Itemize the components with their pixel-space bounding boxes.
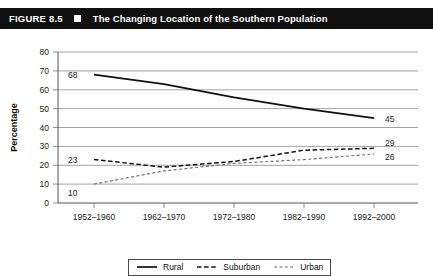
legend-swatch-urban-icon (273, 263, 295, 271)
legend-item-urban[interactable]: Urban (273, 262, 323, 272)
label-urban-end: 26 (385, 152, 395, 162)
y-tick-20: 20 (40, 160, 50, 170)
legend-item-rural[interactable]: Rural (136, 262, 183, 272)
legend-item-suburban[interactable]: Suburban (196, 262, 260, 272)
figure-title: The Changing Location of the Southern Po… (93, 13, 328, 24)
x-tick-1: 1962–1970 (143, 212, 186, 222)
y-tick-marks (53, 52, 58, 203)
data-labels: 68 45 23 29 10 26 (68, 70, 395, 198)
y-tick-70: 70 (40, 66, 50, 76)
chart-area: 80 70 60 50 40 30 20 10 0 Percentage (0, 29, 433, 260)
y-tick-60: 60 (40, 85, 50, 95)
label-rural-end: 45 (385, 114, 395, 124)
chart-legend: Rural Suburban Urban (128, 259, 331, 276)
x-tick-2: 1972–1980 (213, 212, 256, 222)
y-tick-50: 50 (40, 104, 50, 114)
figure-number-label: FIGURE 8.5 (9, 13, 63, 24)
y-tick-0: 0 (44, 198, 49, 208)
label-rural-start: 68 (68, 70, 78, 80)
y-tick-labels: 80 70 60 50 40 30 20 10 0 (40, 47, 50, 208)
filled-square-icon (74, 15, 81, 22)
figure-header-bar: FIGURE 8.5 The Changing Location of the … (0, 8, 433, 29)
legend-label-suburban: Suburban (223, 262, 260, 272)
y-tick-10: 10 (40, 179, 50, 189)
x-tick-0: 1952–1960 (73, 212, 116, 222)
legend-label-urban: Urban (300, 262, 323, 272)
x-tick-marks (94, 203, 374, 208)
y-tick-40: 40 (40, 123, 50, 133)
y-tick-80: 80 (40, 47, 50, 57)
series-line-rural (94, 75, 374, 119)
label-suburban-end: 29 (385, 138, 395, 148)
gridlines (58, 52, 418, 184)
x-tick-3: 1982–1990 (283, 212, 326, 222)
label-urban-start: 10 (68, 188, 78, 198)
legend-swatch-suburban-icon (196, 263, 218, 271)
line-chart: 80 70 60 50 40 30 20 10 0 Percentage (0, 29, 433, 229)
label-suburban-start: 23 (68, 155, 78, 165)
y-tick-30: 30 (40, 141, 50, 151)
series-line-urban (94, 154, 374, 184)
legend-swatch-rural-icon (136, 263, 158, 271)
legend-label-rural: Rural (163, 262, 183, 272)
y-axis-title: Percentage (9, 103, 19, 152)
x-tick-labels: 1952–1960 1962–1970 1972–1980 1982–1990 … (73, 212, 396, 222)
x-tick-4: 1992–2000 (353, 212, 396, 222)
